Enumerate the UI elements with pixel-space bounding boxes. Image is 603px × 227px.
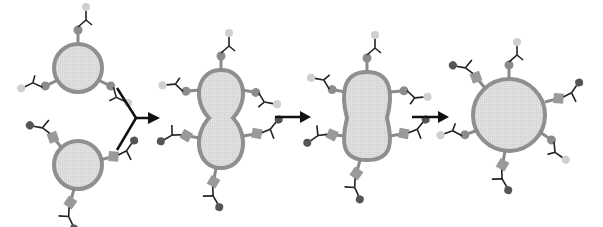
diagram-canvas bbox=[0, 0, 603, 227]
merge-arrow-icon bbox=[117, 88, 160, 150]
fused-vesicle bbox=[435, 38, 588, 195]
vesicle-a bbox=[15, 3, 137, 110]
vesicle-b bbox=[24, 111, 142, 227]
arrow-3-icon bbox=[412, 111, 449, 123]
vesicle-fusion-diagram bbox=[0, 0, 603, 227]
fusion-neck-vesicle bbox=[156, 29, 286, 212]
